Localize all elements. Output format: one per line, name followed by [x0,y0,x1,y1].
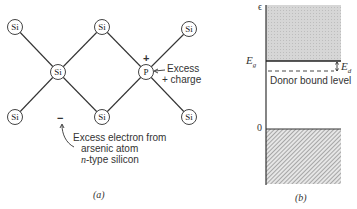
si-atom-bottom-mid: Si [94,109,110,125]
electron-note-line-3: n-type silicon [81,154,139,165]
plus-sign: + [143,53,149,64]
donor-level-label: Donor bound level [270,75,351,86]
bond [102,72,146,117]
excess-charge-arrow [154,69,165,73]
eg-sub: g [253,61,257,69]
valence-band [266,129,341,184]
type-silicon-text: -type silicon [86,154,139,165]
bond [102,27,146,72]
eg-label: Eg [246,55,256,71]
excess-charge-label-2: + charge [162,74,201,85]
si-atom-bottom-left: Si [7,109,23,125]
ed-main: E [341,60,348,72]
ed-arrow [336,62,339,71]
excess-charge-label-1: Excess [167,63,199,74]
crystal-bonds [15,27,189,117]
si-atom-top-mid: Si [94,19,110,35]
caption-a: (a) [93,189,105,200]
electron-note-line-2: arsenic atom [81,143,138,154]
conduction-band [266,5,341,61]
ed-sub: d [348,67,352,75]
electron-mark: − [57,113,63,124]
electron-note-line-1: Excess electron from [73,132,166,143]
si-atom-center: Si [50,64,66,80]
si-atom-top-right: Si [181,21,197,37]
bond [58,27,102,72]
p-donor-atom: P [138,64,154,80]
bond [58,72,102,117]
bond [15,72,58,117]
eg-main: E [246,54,253,66]
diagram-canvas [0,0,357,209]
electron-arrow [60,124,74,147]
zero-label: 0 [257,122,262,133]
si-atom-bottom-right: Si [181,109,197,125]
si-atom-top-left: Si [7,19,23,35]
caption-b: (b) [295,192,307,203]
energy-axis-label: ϵ [258,1,262,12]
